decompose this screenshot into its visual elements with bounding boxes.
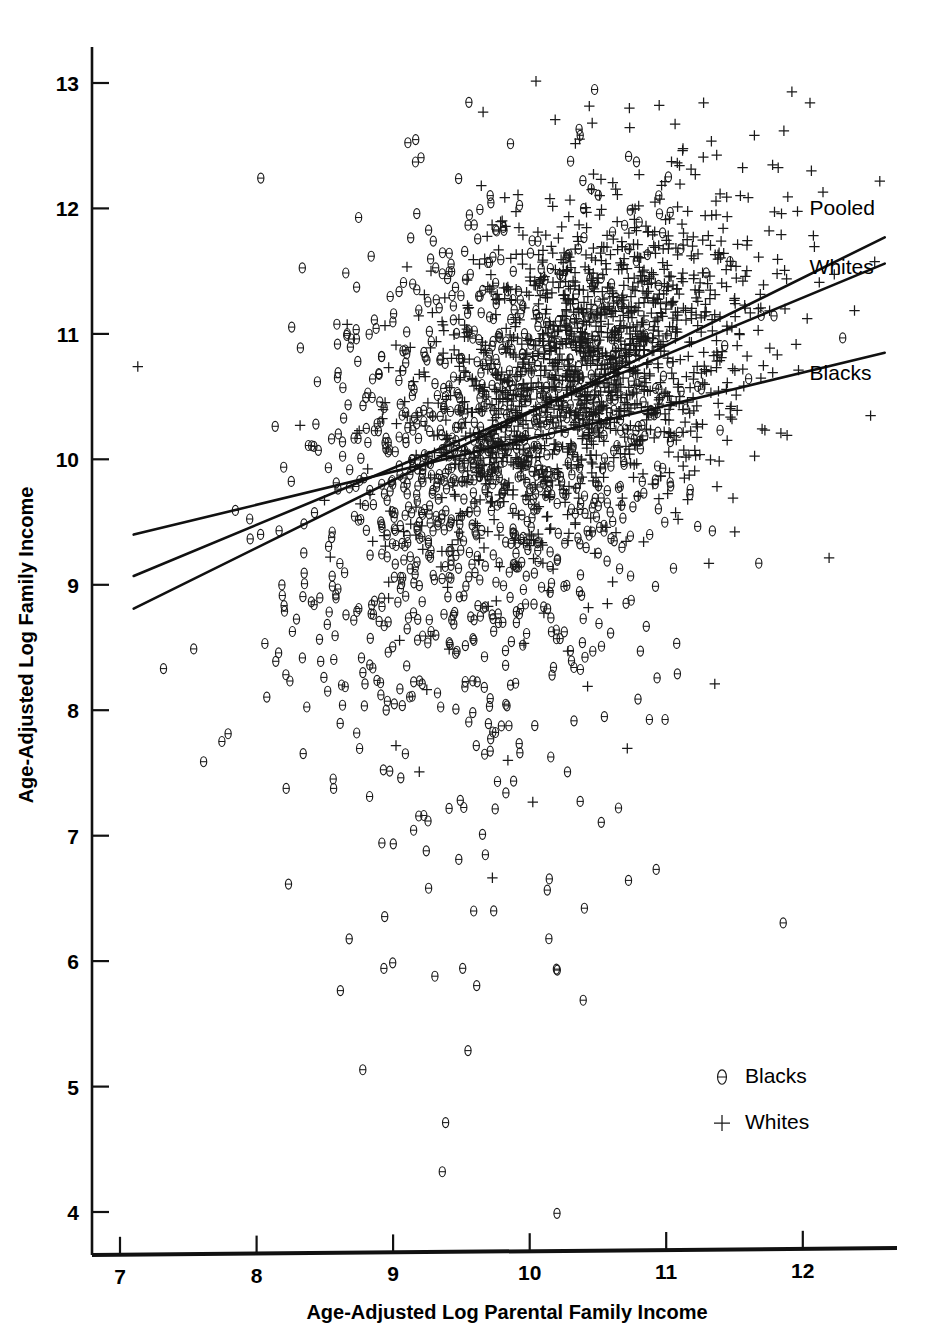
x-tick-label: 9 <box>387 1262 399 1285</box>
y-tick-label: 4 <box>67 1201 79 1224</box>
fit-line-label-whites: Whites <box>810 255 874 278</box>
y-tick-label: 11 <box>57 323 80 346</box>
fit-line-label-pooled: Pooled <box>810 196 875 219</box>
y-axis-title: Age-Adjusted Log Family Income <box>15 487 37 804</box>
y-tick-label: 12 <box>56 197 79 220</box>
plot-background <box>0 0 939 1341</box>
y-tick-label: 6 <box>67 950 79 973</box>
y-tick-label: 9 <box>67 574 79 597</box>
y-tick-label: 13 <box>56 72 79 95</box>
chart-figure: 45678910111213789101112 PooledWhitesBlac… <box>0 0 939 1341</box>
x-tick-label: 12 <box>791 1259 814 1282</box>
x-axis-title: Age-Adjusted Log Parental Family Income <box>306 1301 707 1323</box>
legend-label: Blacks <box>745 1064 807 1087</box>
x-tick-label: 10 <box>518 1261 541 1284</box>
y-tick-label: 10 <box>56 448 79 471</box>
y-tick-label: 8 <box>67 699 79 722</box>
scatter-plot-svg: 45678910111213789101112 PooledWhitesBlac… <box>0 0 939 1341</box>
x-tick-label: 7 <box>114 1265 126 1288</box>
fit-line-label-blacks: Blacks <box>810 361 872 384</box>
y-tick-label: 5 <box>67 1076 79 1099</box>
legend-label: Whites <box>745 1110 809 1133</box>
x-tick-label: 8 <box>251 1264 263 1287</box>
y-tick-label: 7 <box>67 825 79 848</box>
x-tick-label: 11 <box>655 1260 678 1283</box>
